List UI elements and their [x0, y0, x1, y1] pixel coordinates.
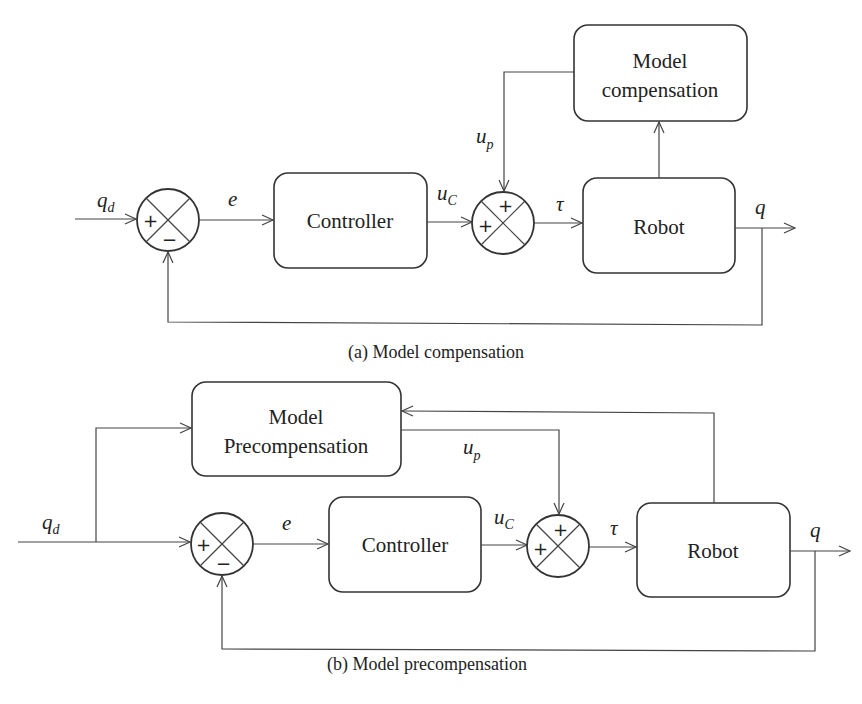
robot-to-model-arrow [402, 411, 714, 503]
model-precompensation-block [192, 382, 401, 476]
model-label-line1: Model [269, 405, 324, 429]
uc-label: uC [494, 505, 515, 532]
model-label-line1: Model [633, 49, 688, 73]
plus-sign: + [533, 538, 548, 559]
caption-b: (b) Model precompensation [327, 654, 527, 675]
e-label: e [282, 511, 291, 535]
plus-sign: + [143, 210, 158, 231]
q-label: q [810, 518, 821, 542]
panel-a: qd + − e Controller uC + + up [75, 25, 795, 363]
summing-junction-1: + − [137, 189, 199, 251]
e-label: e [228, 187, 237, 211]
plus-sign: + [196, 534, 211, 555]
controller-label: Controller [307, 209, 393, 233]
model-label-line2: compensation [602, 78, 719, 102]
block-diagram: qd + − e Controller uC + + up [0, 0, 862, 704]
qd-branch-arrow [96, 428, 191, 542]
minus-sign: − [216, 553, 231, 574]
model-label-line2: Precompensation [224, 434, 369, 458]
uc-label: uC [437, 181, 458, 208]
summing-junction-1: + − [191, 513, 253, 575]
minus-sign: − [162, 229, 177, 250]
up-arrow [504, 72, 574, 191]
plus-sign: + [553, 519, 568, 540]
q-label: q [755, 195, 766, 219]
caption-a: (a) Model compensation [348, 342, 524, 363]
controller-label: Controller [362, 533, 448, 557]
summing-junction-2: + + [472, 192, 534, 254]
summing-junction-2: + + [527, 515, 589, 577]
qd-label: qd [97, 188, 116, 215]
up-label: up [476, 124, 494, 152]
qd-label: qd [42, 510, 61, 537]
tau-label: τ [610, 516, 619, 540]
robot-label: Robot [687, 539, 739, 563]
model-compensation-block [574, 25, 747, 121]
plus-sign: + [498, 195, 513, 216]
up-label: up [463, 435, 481, 463]
robot-label: Robot [633, 215, 685, 239]
tau-label: τ [556, 192, 565, 216]
plus-sign: + [478, 215, 493, 236]
panel-b: qd Model Precompensation + − e Controlle… [18, 382, 850, 675]
